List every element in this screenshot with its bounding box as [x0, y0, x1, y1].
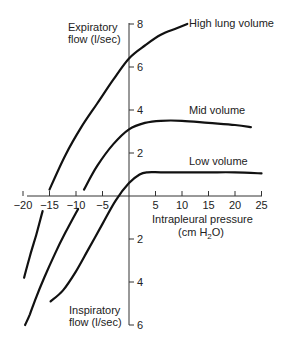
x-axis-units: (cm H2O)	[178, 226, 224, 241]
y-label-inspiratory-line1: Inspiratory	[69, 304, 121, 316]
y-tick-label: 4	[137, 276, 143, 288]
x-tick-label: −20	[14, 199, 33, 211]
low-volume-curve	[51, 172, 262, 301]
y-label-expiratory-line1: Expiratory	[68, 21, 118, 33]
y-tick-label: 6	[137, 319, 143, 331]
x-tick-label: 20	[229, 199, 241, 211]
y-label-inspiratory-line2: flow (l/sec)	[69, 316, 122, 328]
x-axis-label: Intrapleural pressure	[152, 213, 253, 225]
y-tick-label: 6	[137, 61, 143, 73]
y-tick-label: 2	[137, 147, 143, 159]
legend-mid-volume: Mid volume	[189, 104, 245, 116]
y-tick-label: 8	[137, 18, 143, 30]
y-label-expiratory-line2: flow (l/sec)	[68, 33, 121, 45]
x-tick-label: 10	[176, 199, 188, 211]
x-tick-label: 15	[202, 199, 214, 211]
y-tick-label: 2	[137, 233, 143, 245]
x-tick-label: 5	[152, 199, 158, 211]
legend-high-lung-volume: High lung volume	[189, 17, 274, 29]
x-tick-label: 25	[255, 199, 267, 211]
legend-low-volume: Low volume	[189, 155, 248, 167]
high-lung-volume-curve	[24, 211, 42, 278]
x-ticks: −20−15−10−5510152025	[14, 191, 268, 211]
high-lung-volume-curve	[50, 24, 188, 190]
flow-pressure-chart: −20−15−10−5510152025 2468246 Expiratory …	[0, 0, 284, 348]
axes	[27, 23, 262, 325]
x-tick-label: −5	[96, 199, 109, 211]
y-tick-label: 4	[137, 104, 143, 116]
x-tick-label: −10	[67, 199, 86, 211]
x-tick-label: −15	[40, 199, 59, 211]
